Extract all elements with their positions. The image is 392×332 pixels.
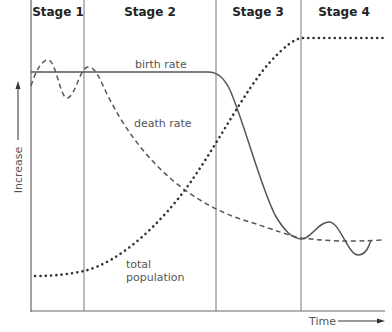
total-population-label-line1: total	[126, 258, 151, 271]
stage-1-label: Stage 1	[32, 5, 84, 19]
stage-3-label: Stage 3	[232, 5, 284, 19]
x-axis-label: Time	[308, 315, 336, 328]
stage-4-label: Stage 4	[318, 5, 370, 19]
y-axis-label: Increase	[12, 146, 25, 193]
stage-2-label: Stage 2	[124, 5, 176, 19]
death-rate-label: death rate	[134, 117, 192, 130]
total-population-label-line2: population	[126, 271, 185, 284]
birth-rate-curve	[31, 72, 371, 255]
x-axis-arrow-icon	[377, 319, 385, 324]
birth-rate-label: birth rate	[135, 58, 187, 71]
total-population-curve	[35, 38, 383, 276]
demographic-transition-chart: Stage 1 Stage 2 Stage 3 Stage 4 birth ra…	[0, 0, 392, 332]
y-axis-arrow-icon	[16, 81, 21, 89]
